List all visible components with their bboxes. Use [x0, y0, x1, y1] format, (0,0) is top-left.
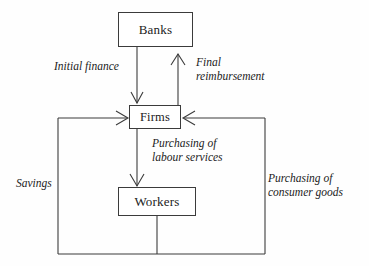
- node-firms: Firms: [129, 105, 181, 129]
- edge-firms-to-banks: [171, 54, 185, 105]
- diagram-canvas: Banks Firms Workers Initial finance Fina…: [0, 0, 369, 266]
- edge-label-purchasing-consumer-goods: Purchasing of consumer goods: [268, 172, 343, 199]
- edge-label-initial-finance: Initial finance: [54, 60, 119, 74]
- edge-label-savings: Savings: [16, 177, 52, 191]
- node-workers: Workers: [118, 187, 196, 216]
- edge-banks-to-firms: [131, 47, 143, 103]
- edge-consumer-goods-to-firms: [183, 111, 265, 254]
- edge-label-purchasing-labour: Purchasing of labour services: [152, 137, 223, 164]
- node-workers-label: Workers: [134, 194, 179, 210]
- node-banks: Banks: [118, 12, 193, 47]
- edge-firms-to-workers: [130, 129, 144, 186]
- edge-label-final-reimbursement: Final reimbursement: [196, 56, 265, 83]
- node-banks-label: Banks: [139, 22, 173, 38]
- node-firms-label: Firms: [140, 110, 170, 125]
- edge-savings-to-firms: [58, 111, 128, 254]
